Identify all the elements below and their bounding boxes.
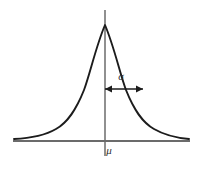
sigma-label: σ bbox=[118, 70, 124, 82]
figure-background bbox=[0, 0, 203, 171]
bell-curve-figure: σ μ bbox=[0, 0, 203, 171]
mu-label: μ bbox=[105, 144, 112, 156]
bell-curve-canvas: σ μ bbox=[0, 0, 203, 171]
